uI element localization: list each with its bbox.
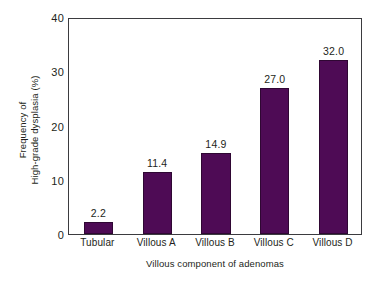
y-axis-title-line1: Frequency of — [17, 102, 29, 159]
bar-value-label: 27.0 — [246, 73, 303, 85]
y-axis-tick-label: 0 — [38, 229, 64, 241]
bar-value-label: 2.2 — [70, 207, 127, 219]
bar-group: 2.2 — [84, 19, 113, 234]
x-axis-tick-label: Villous B — [186, 237, 245, 248]
bar[interactable] — [84, 222, 113, 234]
y-axis-tick-labels: 010203040 — [38, 0, 64, 285]
x-axis-tick-label: Villous D — [303, 237, 362, 248]
bar-value-label: 32.0 — [305, 45, 362, 57]
plot-frame: 2.211.414.927.032.0 — [68, 18, 362, 235]
x-axis-tick-label: Tubular — [68, 237, 127, 248]
bar[interactable] — [201, 153, 230, 234]
y-axis-tick-label: 10 — [38, 175, 64, 187]
bar-value-label: 14.9 — [187, 138, 244, 150]
bar-group: 32.0 — [319, 19, 348, 234]
y-axis-tick-label: 20 — [38, 121, 64, 133]
bar[interactable] — [143, 172, 172, 234]
plot-area: 2.211.414.927.032.0 — [69, 19, 361, 234]
x-axis-tick-label: Villous A — [127, 237, 186, 248]
x-axis-tick-labels: TubularVillous AVillous BVillous CVillou… — [68, 237, 362, 253]
bar[interactable] — [319, 60, 348, 234]
bar[interactable] — [260, 88, 289, 234]
x-axis-title: Villous component of adenomas — [68, 258, 362, 269]
bar-chart-figure: Frequency of High-grade dysplasia (%) 01… — [0, 0, 378, 285]
bar-value-label: 11.4 — [129, 157, 186, 169]
y-axis-tick-label: 40 — [38, 12, 64, 24]
bar-group: 14.9 — [201, 19, 230, 234]
bar-group: 11.4 — [143, 19, 172, 234]
y-axis-tick-label: 30 — [38, 66, 64, 78]
bar-group: 27.0 — [260, 19, 289, 234]
x-axis-tick-label: Villous C — [244, 237, 303, 248]
